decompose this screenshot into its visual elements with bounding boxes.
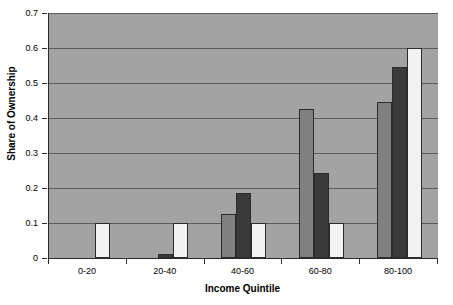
x-tick-mark <box>48 259 49 264</box>
y-tick-mark <box>42 223 47 224</box>
y-tick-mark <box>42 48 47 49</box>
x-tick-mark <box>359 259 360 264</box>
x-tick-mark <box>437 259 438 264</box>
bar-0-20-series-3 <box>95 223 110 258</box>
x-tick-mark <box>126 259 127 264</box>
bar-80-100-series-1 <box>377 102 392 258</box>
x-tick-label-80-100: 80-100 <box>384 266 412 276</box>
bar-20-40-series-3 <box>173 223 188 258</box>
bar-40-60-series-2 <box>236 193 251 258</box>
y-tick-label: 0 <box>33 253 38 263</box>
bar-60-80-series-3 <box>329 223 344 258</box>
bar-chart: Share of Ownership 00.10.20.30.40.50.60.… <box>0 0 453 305</box>
y-tick-mark <box>42 13 47 14</box>
y-tick-label: 0.7 <box>25 8 38 18</box>
y-tick-label: 0.6 <box>25 43 38 53</box>
bar-80-100-series-3 <box>407 48 422 258</box>
gridline <box>49 83 438 84</box>
x-tick-label-20-40: 20-40 <box>153 266 176 276</box>
x-tick-label-0-20: 0-20 <box>78 266 96 276</box>
y-tick-mark <box>42 188 47 189</box>
y-tick-label: 0.1 <box>25 218 38 228</box>
gridline <box>49 48 438 49</box>
bar-80-100-series-2 <box>392 67 407 258</box>
x-tick-mark <box>281 259 282 264</box>
bar-40-60-series-1 <box>221 214 236 258</box>
y-tick-label: 0.2 <box>25 183 38 193</box>
x-axis-title: Income Quintile <box>48 283 437 294</box>
y-tick-label: 0.5 <box>25 78 38 88</box>
bar-60-80-series-1 <box>299 109 314 258</box>
y-axis-labels: 00.10.20.30.40.50.60.7 <box>0 0 44 258</box>
y-tick-mark <box>42 258 47 259</box>
x-tick-mark <box>204 259 205 264</box>
x-tick-label-40-60: 40-60 <box>231 266 254 276</box>
y-tick-mark <box>42 83 47 84</box>
y-tick-label: 0.3 <box>25 148 38 158</box>
gridline <box>49 13 438 14</box>
y-tick-mark <box>42 118 47 119</box>
bar-40-60-series-3 <box>251 223 266 258</box>
y-tick-label: 0.4 <box>25 113 38 123</box>
y-tick-mark <box>42 153 47 154</box>
bar-60-80-series-2 <box>314 173 329 258</box>
x-tick-label-60-80: 60-80 <box>309 266 332 276</box>
bar-20-40-series-2 <box>158 254 173 258</box>
plot-area <box>48 13 438 259</box>
